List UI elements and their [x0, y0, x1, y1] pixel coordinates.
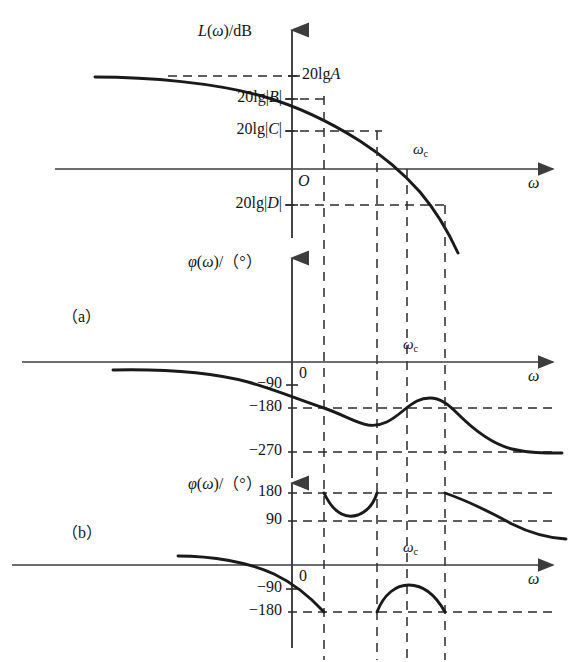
phase-b-zero-label: 0 [299, 567, 307, 585]
phase-a-panel [22, 258, 562, 478]
magnitude-panel [55, 30, 553, 253]
omega-axis-label-phase-b: ω [528, 570, 539, 588]
phase-a-curve [113, 370, 562, 453]
magnitude-tick-label-B: 20lg|B| [168, 88, 282, 106]
omega-c-label-magnitude: ωc [413, 141, 428, 159]
phase-b-tick-minus180-label: −180 [200, 601, 282, 619]
phase-a-tick-minus180-label: −180 [200, 397, 282, 415]
phase-b-arc-upper-dip [324, 493, 377, 516]
magnitude-tick-label-D: 20lg|D| [168, 194, 282, 212]
omega-axis-label-magnitude: ω [528, 174, 539, 192]
magnitude-tick-label-C: 20lg|C| [168, 120, 282, 138]
panel-label-a: （a） [62, 303, 101, 327]
phase-b-panel [12, 483, 566, 648]
phase-b-arc-lower-bump [377, 585, 445, 612]
phase-a-tick-minus270-label: −270 [200, 441, 282, 459]
phase-a-y-axis-label: φ(ω)/（°） [188, 248, 262, 272]
bode-figure-svg [0, 0, 586, 662]
omega-c-label-phase-a: ωc [403, 336, 418, 354]
origin-label-O: O [298, 172, 310, 190]
panel-label-b: （b） [62, 519, 102, 543]
magnitude-tick-label-A: 20lgA [302, 65, 340, 83]
omega-c-label-phase-b: ωc [403, 539, 418, 557]
phase-b-tick-minus90-label: −90 [210, 578, 282, 596]
construction-lines [324, 96, 445, 660]
phase-b-tick-180-label: 180 [210, 482, 282, 500]
omega-axis-label-phase-a: ω [528, 367, 539, 385]
phase-a-zero-label: 0 [299, 364, 307, 382]
phase-a-tick-minus90-label: −90 [210, 374, 282, 392]
bode-figure: L(ω)/dB 20lgA 20lg|B| 20lg|C| 20lg|D| O … [0, 0, 586, 662]
phase-b-curve-right [445, 493, 566, 539]
phase-b-tick-90-label: 90 [210, 510, 282, 528]
magnitude-y-axis-label: L(ω)/dB [198, 22, 252, 40]
